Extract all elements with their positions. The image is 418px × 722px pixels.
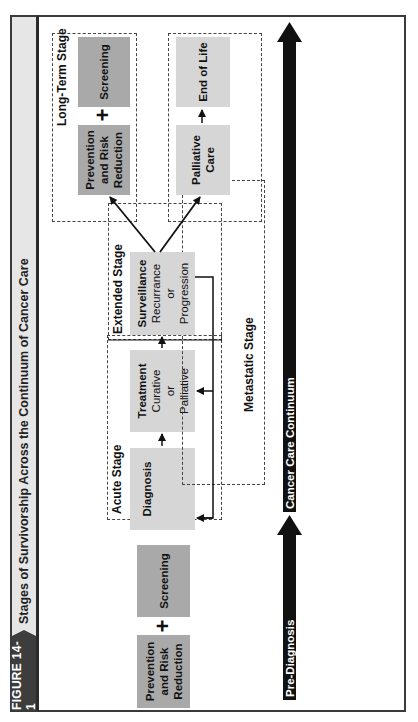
timeline-arrows bbox=[0, 0, 418, 722]
figure-canvas: FIGURE 14-1 Stages of Survivorship Acros… bbox=[0, 0, 418, 722]
cancer-care-continuum-label: Cancer Care Continuum bbox=[283, 374, 296, 512]
pre-diagnosis-label: Pre-Diagnosis bbox=[283, 617, 296, 700]
